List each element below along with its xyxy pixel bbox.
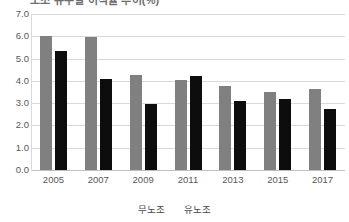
bar-nonunion-2013[interactable] [219,86,231,170]
bar-chart: 노조 유무별 이직률 추이(%) 7.06.05.04.03.02.01.00.… [0,0,349,222]
x-axis-tick-label: 2011 [166,174,211,185]
bar-nonunion-2011[interactable] [175,80,187,170]
chart-title-clipped: 노조 유무별 이직률 추이(%) [0,0,349,6]
x-axis-labels: 2005200720092011201320152017 [31,174,345,185]
x-axis-tick-label: 2015 [255,174,300,185]
bar-group [76,14,121,170]
bar-nonunion-2015[interactable] [264,92,276,170]
bar-nonunion-2009[interactable] [130,75,142,170]
y-axis-tick-label: 0.0 [3,165,29,175]
bar-series-container [31,14,345,170]
y-axis-tick-label: 3.0 [3,98,29,108]
bar-nonunion-2005[interactable] [40,36,52,170]
bar-nonunion-2017[interactable] [309,89,321,170]
bar-group [31,14,76,170]
axis-baseline [31,170,345,171]
bar-group [210,14,255,170]
bar-union-2013[interactable] [234,101,246,170]
y-axis-labels: 7.06.05.04.03.02.01.00.0 [0,14,29,170]
y-axis-tick-label: 7.0 [3,9,29,19]
x-axis-tick-label: 2009 [121,174,166,185]
chart-title-text: 노조 유무별 이직률 추이(%) [30,0,159,6]
bar-group [166,14,211,170]
y-axis-tick-label: 1.0 [3,143,29,153]
bar-group [255,14,300,170]
y-axis-tick-label: 6.0 [3,32,29,42]
y-axis-tick-label: 5.0 [3,54,29,64]
x-axis-tick-label: 2007 [76,174,121,185]
legend-item-무노조[interactable]: 무노조 [138,202,165,216]
legend-item-유노조[interactable]: 유노조 [184,202,211,216]
bar-union-2015[interactable] [279,99,291,170]
bar-union-2007[interactable] [100,79,112,170]
bar-group [121,14,166,170]
bar-union-2009[interactable] [145,104,157,170]
bar-union-2017[interactable] [324,109,336,170]
bar-union-2005[interactable] [55,51,67,170]
x-axis-tick-label: 2005 [31,174,76,185]
bar-group [300,14,345,170]
bar-nonunion-2007[interactable] [85,37,97,170]
x-axis-tick-label: 2013 [210,174,255,185]
bar-union-2011[interactable] [190,76,202,170]
y-axis-tick-label: 2.0 [3,121,29,131]
chart-legend: 무노조유노조 [0,202,349,216]
x-axis-tick-label: 2017 [300,174,345,185]
y-axis-tick-label: 4.0 [3,76,29,86]
